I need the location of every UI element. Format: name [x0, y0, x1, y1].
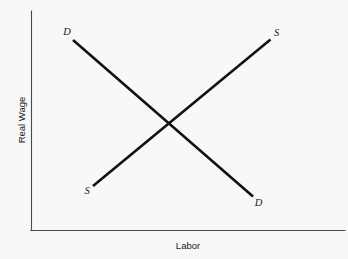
labor-market-chart: D S S D Real Wage Labor: [0, 0, 348, 259]
chart-canvas: D S S D Real Wage Labor: [0, 0, 348, 259]
demand-lower-label: D: [254, 197, 263, 208]
x-axis-title: Labor: [176, 240, 200, 251]
supply-upper-label: S: [274, 27, 280, 38]
y-axis-title: Real Wage: [16, 97, 27, 144]
supply-lower-label: S: [84, 185, 90, 196]
demand-upper-label: D: [62, 26, 71, 37]
